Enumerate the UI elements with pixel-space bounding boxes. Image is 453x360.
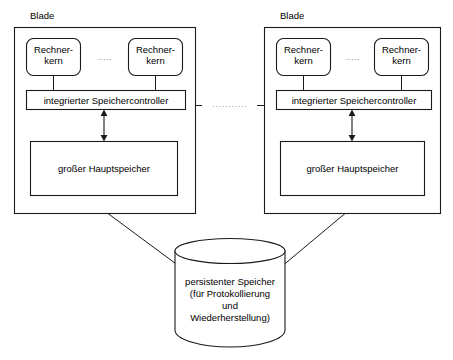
blade-left-controller-label: integrierter Speichercontroller xyxy=(27,95,185,107)
blade-right-core-1-label: Rechner- kern xyxy=(276,44,331,66)
diagram-canvas: Blade Rechner- kern Rechner- kern ..... … xyxy=(0,0,453,360)
blade-right-core-ellipsis: ..... xyxy=(336,53,370,62)
storage-label: persistenter Speicher (für Protokollieru… xyxy=(176,276,284,324)
blade-left-core-2-label: Rechner- kern xyxy=(128,44,183,66)
blade-right-controller-label: integrierter Speichercontroller xyxy=(277,95,431,107)
blade-left-title: Blade xyxy=(30,10,110,22)
blade-right-core-2-label: Rechner- kern xyxy=(374,44,429,66)
blade-left-core-1-label: Rechner- kern xyxy=(26,44,81,66)
blade-left-core-ellipsis: ..... xyxy=(88,53,122,62)
inter-blade-ellipsis: ........... xyxy=(202,100,258,109)
blade-left-memory-label: großer Hauptspeicher xyxy=(31,163,177,175)
storage-cylinder-top xyxy=(175,239,285,264)
blade-right-title: Blade xyxy=(280,10,360,22)
blade-right-memory-label: großer Hauptspeicher xyxy=(281,163,424,175)
